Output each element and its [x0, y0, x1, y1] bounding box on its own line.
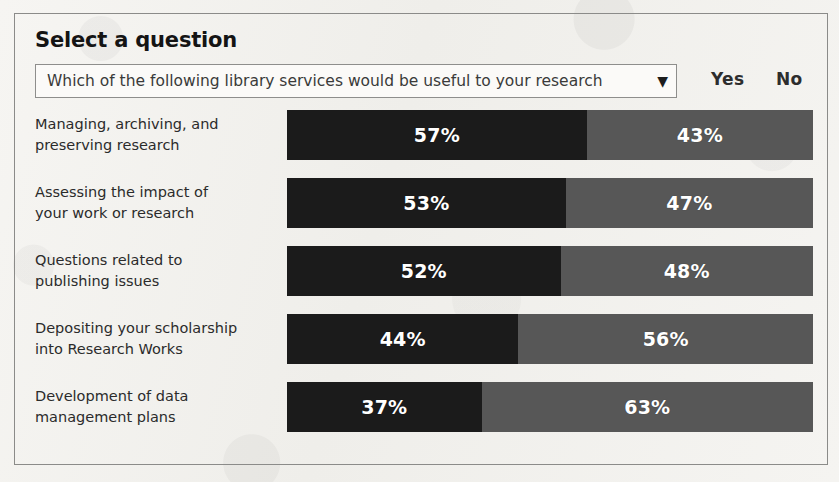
- bar-segment-no: 43%: [587, 110, 813, 160]
- chart-row: Managing, archiving, andpreserving resea…: [15, 110, 829, 160]
- page-title: Select a question: [35, 28, 237, 52]
- chevron-down-icon[interactable]: ▼: [657, 74, 668, 88]
- select-a-question-panel: Select a question Which of the following…: [14, 13, 828, 465]
- bar-segment-no: 47%: [566, 178, 813, 228]
- question-dropdown-value: Which of the following library services …: [47, 72, 651, 90]
- chart-row-label: Managing, archiving, andpreserving resea…: [35, 110, 283, 160]
- bar-segment-yes: 53%: [287, 178, 566, 228]
- chart-row-label-line: your work or research: [35, 203, 283, 224]
- chart-row: Questions related topublishing issues52%…: [15, 246, 829, 296]
- chart-row-label-line: into Research Works: [35, 339, 283, 360]
- bar-segment-yes: 57%: [287, 110, 587, 160]
- question-selector-row: Which of the following library services …: [35, 64, 810, 100]
- chart-row-label: Development of datamanagement plans: [35, 382, 283, 432]
- chart-row-label: Depositing your scholarshipinto Research…: [35, 314, 283, 364]
- bar-segment-yes: 37%: [287, 382, 482, 432]
- chart-row: Assessing the impact ofyour work or rese…: [15, 178, 829, 228]
- chart-row-label-line: preserving research: [35, 135, 283, 156]
- chart-row: Depositing your scholarshipinto Research…: [15, 314, 829, 364]
- legend-item-yes: Yes: [711, 69, 744, 89]
- stacked-bar: 44%56%: [287, 314, 813, 364]
- chart-row-label-line: Questions related to: [35, 250, 283, 271]
- chart-row: Development of datamanagement plans37%63…: [15, 382, 829, 432]
- chart-rows: Managing, archiving, andpreserving resea…: [15, 110, 829, 432]
- bar-segment-yes: 44%: [287, 314, 518, 364]
- chart-row-label-line: management plans: [35, 407, 283, 428]
- stacked-bar: 37%63%: [287, 382, 813, 432]
- chart-row-label: Assessing the impact ofyour work or rese…: [35, 178, 283, 228]
- question-dropdown[interactable]: Which of the following library services …: [35, 64, 677, 98]
- chart-row-label-line: Development of data: [35, 386, 283, 407]
- chart-row-label-line: Assessing the impact of: [35, 182, 283, 203]
- bar-segment-yes: 52%: [287, 246, 561, 296]
- chart-row-label-line: publishing issues: [35, 271, 283, 292]
- bar-segment-no: 48%: [561, 246, 813, 296]
- stacked-bar: 52%48%: [287, 246, 813, 296]
- chart-row-label-line: Depositing your scholarship: [35, 318, 283, 339]
- bar-segment-no: 63%: [482, 382, 813, 432]
- chart-row-label: Questions related topublishing issues: [35, 246, 283, 296]
- stacked-bar: 57%43%: [287, 110, 813, 160]
- legend-item-no: No: [776, 69, 803, 89]
- chart-row-label-line: Managing, archiving, and: [35, 114, 283, 135]
- bar-segment-no: 56%: [518, 314, 813, 364]
- stacked-bar: 53%47%: [287, 178, 813, 228]
